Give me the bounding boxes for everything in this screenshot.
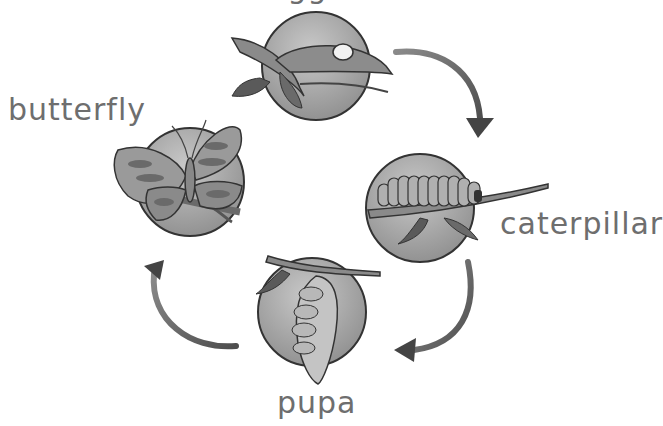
arrow-egg-to-caterpillar-icon <box>396 52 494 138</box>
pupa-stage-icon <box>256 256 380 384</box>
arrow-caterpillar-to-pupa-icon <box>394 262 471 362</box>
stage-label-caterpillar: caterpillar <box>500 206 663 241</box>
stage-label-egg: egg <box>268 0 328 5</box>
stage-label-butterfly: butterfly <box>8 92 146 127</box>
egg-stage-icon <box>232 12 392 120</box>
arrow-pupa-to-butterfly-icon <box>144 260 236 346</box>
butterfly-stage-icon <box>114 120 244 236</box>
stage-label-pupa: pupa <box>277 385 356 420</box>
